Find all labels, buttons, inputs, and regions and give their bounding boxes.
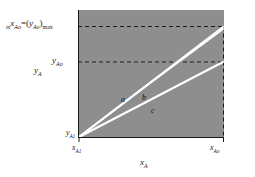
yao-sub: Ao [56, 61, 63, 67]
ya-sub: A [38, 71, 42, 77]
x-tick-label-xao: xAo [210, 144, 219, 154]
ya1-sub: A1 [70, 133, 76, 139]
xa1-sub: A1 [76, 148, 82, 154]
y-tick-label-ya1: yA1 [66, 129, 75, 139]
series-label-a: a [121, 95, 125, 104]
ymax-close-sub: max [43, 24, 53, 30]
y-tick-label-ymax: mxAo=(yAo)max [6, 19, 53, 31]
x-axis-title: xA [140, 158, 148, 170]
ymax-paren-sub: Ao [33, 24, 40, 30]
figure-container: mxAo=(yAo)max yAo yA yA1 xA1 xAo xA a b … [0, 0, 255, 177]
y-tick-label-yao: yAo [52, 56, 63, 68]
x-tick-label-xa1: xA1 [72, 144, 81, 154]
ymax-base-sub: Ao [14, 24, 21, 30]
y-axis-title: yA [34, 66, 42, 78]
xao-sub: Ao [214, 148, 220, 154]
series-line-c [79, 62, 223, 137]
series-label-c: c [151, 106, 155, 115]
ymax-equals: =( [21, 18, 29, 28]
xa-sub: A [144, 163, 148, 169]
series-line-b [79, 29, 223, 137]
series-label-b: b [142, 93, 146, 102]
